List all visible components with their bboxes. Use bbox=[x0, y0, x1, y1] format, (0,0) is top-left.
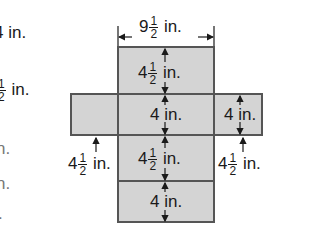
fraction-denominator: 2 bbox=[149, 28, 158, 40]
fraction-denominator: 2 bbox=[148, 74, 157, 86]
label-whole: 4 bbox=[138, 63, 147, 82]
center-face-label: 4 in. bbox=[150, 106, 182, 123]
fraction: 12 bbox=[148, 147, 157, 172]
bottom-face-label: 4 in. bbox=[150, 193, 182, 210]
label-unit: in. bbox=[238, 105, 256, 124]
label-whole: 4 bbox=[224, 105, 233, 124]
label-unit: in. bbox=[163, 149, 181, 168]
label-whole: 4 bbox=[218, 154, 227, 173]
label-whole: 9 bbox=[139, 17, 148, 36]
fraction: 12 bbox=[148, 61, 157, 86]
right-face-label: 4 in. bbox=[224, 106, 256, 123]
label-unit: in. bbox=[164, 17, 182, 36]
fraction-denominator: 2 bbox=[78, 165, 87, 177]
label-whole: 4 bbox=[150, 192, 159, 211]
label-whole: 4 bbox=[68, 154, 77, 173]
label-whole: 4 bbox=[138, 149, 147, 168]
fraction-denominator: 2 bbox=[228, 165, 237, 177]
top-width-label: 912 in. bbox=[139, 15, 182, 40]
right-side-label: 412 in. bbox=[218, 152, 261, 177]
fraction: 12 bbox=[78, 152, 87, 177]
top-face-label: 412 in. bbox=[138, 61, 181, 86]
left-side-label: 412 in. bbox=[68, 152, 111, 177]
label-unit: in. bbox=[164, 192, 182, 211]
label-unit: in. bbox=[93, 154, 111, 173]
label-unit: in. bbox=[164, 105, 182, 124]
label-unit: in. bbox=[243, 154, 261, 173]
fraction-denominator: 2 bbox=[148, 160, 157, 172]
fraction: 12 bbox=[149, 15, 158, 40]
fraction: 12 bbox=[228, 152, 237, 177]
label-unit: in. bbox=[163, 63, 181, 82]
label-whole: 4 bbox=[150, 105, 159, 124]
lower-face-label: 412 in. bbox=[138, 147, 181, 172]
